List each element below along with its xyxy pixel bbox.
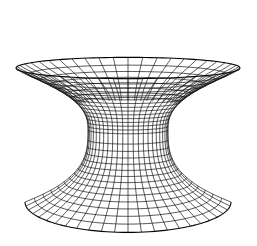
front-mesh-lines [16, 57, 240, 232]
wireframe-surface [0, 0, 257, 246]
meridian-line-back [141, 58, 157, 101]
meridian-line [167, 71, 237, 210]
meridian-line [20, 71, 90, 210]
meridian-line-back [99, 58, 115, 101]
figure-canvas [0, 0, 257, 246]
